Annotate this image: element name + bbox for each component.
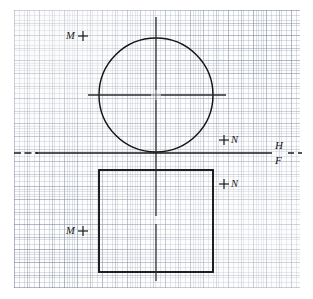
point-label-n-front: N	[231, 178, 238, 189]
point-label-n-top: N	[231, 134, 238, 145]
point-m-top-mark	[78, 31, 88, 41]
point-n-front-mark	[219, 179, 229, 189]
point-label-m-front: M	[66, 225, 75, 236]
fold-line-label-f: F	[275, 154, 282, 166]
fold-line-label-h: H	[275, 139, 283, 151]
point-label-m-top: M	[66, 30, 75, 41]
technical-drawing	[0, 0, 313, 299]
point-m-front-mark	[78, 226, 88, 236]
point-n-top-mark	[219, 135, 229, 145]
drawing-sheet: M N N M H F	[0, 0, 313, 299]
